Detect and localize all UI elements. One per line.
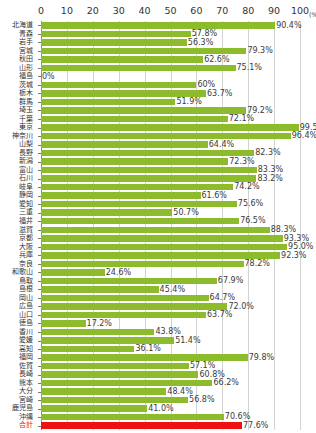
bar-row[interactable]: 72.1% [41, 115, 300, 124]
bar-row[interactable]: 24.6% [41, 268, 300, 277]
bar-row[interactable]: 51.4% [41, 336, 300, 345]
bar-高知[interactable] [41, 346, 134, 353]
bar-row[interactable]: 96.4% [41, 132, 300, 141]
bar-row[interactable]: 95.0% [41, 243, 300, 252]
category-label-茨城: 茨城 [19, 81, 33, 90]
bar-青森[interactable] [41, 31, 191, 38]
bar-新潟[interactable] [41, 158, 228, 165]
bar-row[interactable]: 63.7% [41, 89, 300, 98]
bar-岡山[interactable] [41, 295, 209, 302]
bar-row[interactable]: 99.5% [41, 123, 300, 132]
bar-row[interactable]: 60% [41, 81, 300, 90]
bar-大分[interactable] [41, 388, 166, 395]
bar-愛知[interactable] [41, 201, 237, 208]
bar-長野[interactable] [41, 150, 254, 157]
bar-神奈川[interactable] [41, 133, 291, 140]
bar-row[interactable]: 88.3% [41, 226, 300, 235]
bar-chart: 0102030405060708090100(%) 北海道青森岩手宮城秋田山形福… [0, 0, 316, 433]
bar-row[interactable]: 93.3% [41, 234, 300, 243]
bar-兵庫[interactable] [41, 252, 280, 259]
x-tick-label-10: 10 [61, 5, 73, 16]
bar-群馬[interactable] [41, 99, 175, 106]
bar-row[interactable]: 90.4% [41, 21, 300, 30]
bar-row[interactable]: 60.8% [41, 370, 300, 379]
bar-value-label: 72.3% [228, 157, 254, 166]
bar-奈良[interactable] [41, 261, 244, 268]
bar-静岡[interactable] [41, 192, 201, 199]
bar-value-label: 78.2% [244, 259, 270, 268]
bar-石川[interactable] [41, 175, 256, 182]
bar-北海道[interactable] [41, 22, 275, 29]
bar-row[interactable]: 41.0% [41, 404, 300, 413]
category-label-北海道: 北海道 [12, 21, 33, 30]
bar-佐賀[interactable] [41, 363, 189, 370]
bar-東京[interactable] [41, 124, 299, 131]
bar-福井[interactable] [41, 218, 239, 225]
bar-熊本[interactable] [41, 380, 212, 387]
bar-愛媛[interactable] [41, 337, 174, 344]
bar-value-label: 83.2% [256, 174, 282, 183]
bar-row[interactable]: 74.2% [41, 183, 300, 192]
bar-沖縄[interactable] [41, 414, 224, 421]
bar-value-label: 79.8% [248, 353, 274, 362]
bar-和歌山[interactable] [41, 269, 105, 276]
bar-row[interactable]: 48.4% [41, 387, 300, 396]
bar-row[interactable]: 0% [41, 72, 300, 81]
bar-value-label: 67.9% [217, 276, 243, 285]
bar-山口[interactable] [41, 312, 206, 319]
bar-row[interactable]: 78.2% [41, 260, 300, 269]
bar-茨城[interactable] [41, 82, 196, 89]
bar-row[interactable]: 45.4% [41, 285, 300, 294]
bar-宮崎[interactable] [41, 397, 188, 404]
bar-宮城[interactable] [41, 48, 246, 55]
bar-row[interactable]: 72.0% [41, 302, 300, 311]
bar-row[interactable]: 43.8% [41, 328, 300, 337]
category-label-山口: 山口 [19, 311, 33, 320]
bar-row[interactable]: 57.8% [41, 30, 300, 39]
bar-value-label: 61.6% [201, 191, 227, 200]
bar-row[interactable]: 64.7% [41, 294, 300, 303]
x-tick-label-50: 50 [164, 5, 176, 16]
category-label-秋田: 秋田 [19, 55, 33, 64]
category-label-大阪: 大阪 [19, 243, 33, 252]
bar-row[interactable]: 63.7% [41, 311, 300, 320]
category-label-三重: 三重 [19, 208, 33, 217]
bar-row[interactable]: 79.2% [41, 106, 300, 115]
bar-富山[interactable] [41, 167, 257, 174]
category-label-東京: 東京 [19, 123, 33, 132]
bar-value-label: 63.7% [206, 89, 232, 98]
category-label-埼玉: 埼玉 [19, 106, 33, 115]
bar-row[interactable]: 57.1% [41, 362, 300, 371]
bar-row[interactable]: 82.3% [41, 149, 300, 158]
bar-広島[interactable] [41, 303, 227, 310]
bar-value-label: 50.7% [172, 208, 198, 217]
bar-三重[interactable] [41, 209, 172, 216]
bar-row[interactable]: 79.8% [41, 353, 300, 362]
bar-row[interactable]: 83.2% [41, 174, 300, 183]
bar-row[interactable]: 79.3% [41, 47, 300, 56]
bar-滋賀[interactable] [41, 227, 270, 234]
bar-value-label: 75.1% [236, 63, 262, 72]
bar-鳥取[interactable] [41, 278, 217, 285]
bar-島根[interactable] [41, 286, 159, 293]
gridline-100 [300, 21, 301, 430]
bar-千葉[interactable] [41, 116, 228, 123]
bar-秋田[interactable] [41, 56, 203, 63]
category-label-滋賀: 滋賀 [19, 226, 33, 235]
bar-岩手[interactable] [41, 39, 187, 46]
bar-row[interactable]: 75.1% [41, 64, 300, 73]
bar-福岡[interactable] [41, 354, 248, 361]
bar-row[interactable]: 75.6% [41, 200, 300, 209]
bar-長崎[interactable] [41, 371, 198, 378]
bar-鹿児島[interactable] [41, 405, 147, 412]
bar-京都[interactable] [41, 235, 283, 242]
bar-栃木[interactable] [41, 90, 206, 97]
bar-大阪[interactable] [41, 244, 287, 251]
bar-香川[interactable] [41, 329, 154, 336]
bar-山形[interactable] [41, 65, 236, 72]
bar-岐阜[interactable] [41, 184, 233, 191]
bar-徳島[interactable] [41, 320, 86, 327]
bar-山梨[interactable] [41, 141, 208, 148]
bar-埼玉[interactable] [41, 107, 246, 114]
bar-row[interactable]: 76.5% [41, 217, 300, 226]
